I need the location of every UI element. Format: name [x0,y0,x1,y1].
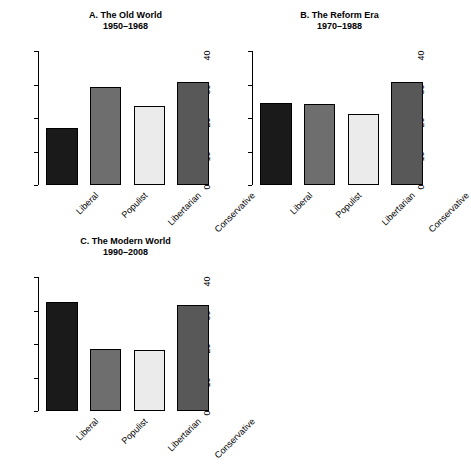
x-axis-label-conservative: Conservative [213,417,257,461]
y-axis-tick [248,152,252,153]
y-axis-tick [248,85,252,86]
y-axis-tick-label: 40 [203,51,212,61]
x-axis-label-liberal: Liberal [289,191,314,216]
panel-title: C. The Modern World [38,236,213,247]
y-axis-tick [34,152,38,153]
y-axis-tick [34,118,38,119]
y-axis-tick [248,51,252,52]
y-axis-tick [34,344,38,345]
y-axis-tick [248,185,252,186]
bar-libertarian [348,114,380,185]
bar-liberal [260,103,292,185]
y-axis-tick-label: 0 [417,185,426,190]
y-axis-line [38,51,39,185]
x-axis-label-conservative: Conservative [427,191,471,235]
bar-liberal [46,128,78,185]
bar-populist [90,349,122,411]
y-axis-line [38,277,39,411]
y-axis-tick [34,185,38,186]
y-axis-tick [34,51,38,52]
chart-panel-b: B. The Reform Era1970–1988010203040Liber… [220,10,437,32]
y-axis-tick [34,85,38,86]
bar-populist [90,87,122,185]
y-axis-tick-label: 40 [203,277,212,287]
bar-liberal [46,302,78,411]
y-axis-tick-label: 40 [417,51,426,61]
plot-area: 010203040LiberalPopulistLibertarianConse… [252,51,427,185]
x-axis-label-populist: Populist [334,191,363,220]
y-axis-tick-label: 0 [203,411,212,416]
x-axis-label-populist: Populist [120,191,149,220]
bar-conservative [177,305,209,411]
panel-subtitle: 1970–1988 [252,21,427,32]
x-axis-label-liberal: Liberal [75,191,100,216]
panel-title-block: C. The Modern World1990–2008 [6,236,213,258]
bar-populist [304,104,336,185]
y-axis-tick [34,311,38,312]
y-axis-tick [34,411,38,412]
chart-panel-a: A. The Old World1950–1968010203040Libera… [6,10,223,32]
y-axis-tick [34,378,38,379]
bar-conservative [391,82,423,186]
y-axis-tick [34,277,38,278]
x-axis-label-conservative: Conservative [213,191,257,235]
bar-libertarian [134,350,166,411]
bar-conservative [177,82,209,186]
panel-title: A. The Old World [38,10,213,21]
panel-subtitle: 1950–1968 [38,21,213,32]
x-axis-label-liberal: Liberal [75,417,100,442]
y-axis-tick-label: 0 [203,185,212,190]
x-axis-label-libertarian: Libertarian [167,417,203,453]
x-axis-label-libertarian: Libertarian [381,191,417,227]
panel-title-block: A. The Old World1950–1968 [6,10,213,32]
y-axis-line [252,51,253,185]
panel-subtitle: 1990–2008 [38,247,213,258]
plot-area: 010203040LiberalPopulistLibertarianConse… [38,51,213,185]
x-axis-label-libertarian: Libertarian [167,191,203,227]
panel-title: B. The Reform Era [252,10,427,21]
panel-title-block: B. The Reform Era1970–1988 [220,10,427,32]
chart-panel-c: C. The Modern World1990–2008010203040Lib… [6,236,223,258]
y-axis-tick [248,118,252,119]
plot-area: 010203040LiberalPopulistLibertarianConse… [38,277,213,411]
x-axis-label-populist: Populist [120,417,149,446]
bar-libertarian [134,106,166,185]
